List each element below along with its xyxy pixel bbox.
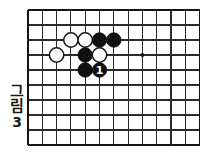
stone-body — [49, 48, 63, 62]
stone-body — [92, 33, 106, 47]
stone-white[interactable] — [78, 33, 92, 47]
star-point — [141, 53, 145, 57]
stone-white[interactable] — [92, 48, 106, 62]
stone-black[interactable] — [78, 63, 92, 77]
stone-body — [78, 48, 92, 62]
go-board: 1 — [0, 0, 208, 154]
stone-body — [78, 33, 92, 47]
stone-black[interactable] — [107, 33, 121, 47]
stone-white[interactable] — [49, 48, 63, 62]
stone-black[interactable] — [92, 33, 106, 47]
stone-move-number: 1 — [96, 64, 104, 77]
stone-black[interactable]: 1 — [92, 63, 106, 77]
go-diagram-figure: 그 림 3 1 — [0, 0, 208, 154]
stone-body — [78, 63, 92, 77]
stone-black[interactable] — [78, 48, 92, 62]
stone-white[interactable] — [64, 33, 78, 47]
stone-body — [64, 33, 78, 47]
board-star-points — [141, 53, 145, 57]
stone-body — [107, 33, 121, 47]
stone-body — [92, 48, 106, 62]
board-gridlines — [28, 10, 200, 145]
